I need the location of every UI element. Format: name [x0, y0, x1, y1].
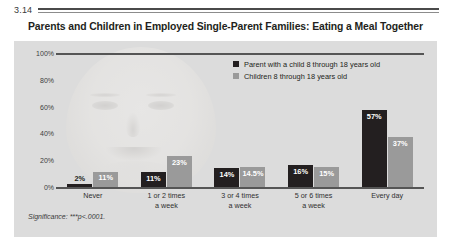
bar-group-1-or-2-times: 11% 23%	[130, 53, 204, 187]
plot-area: 2% 11% 11% 23% 14% 14.5%	[56, 53, 424, 188]
x-tick-label-every-day: Every day	[350, 191, 424, 210]
bar-value-label: 14%	[220, 171, 235, 178]
bar-group-3-or-4-times: 14% 14.5%	[203, 53, 277, 187]
bar-parent-3-or-4-times: 14%	[214, 168, 239, 187]
bar-value-label: 2%	[74, 175, 85, 182]
bar-value-label: 15%	[319, 170, 334, 177]
bar-parent-never: 2%	[67, 184, 92, 187]
bar-group-never: 2% 11%	[56, 53, 130, 187]
bar-value-label: 16%	[293, 168, 308, 175]
chart-panel: Parent with a child 8 through 18 years o…	[14, 41, 437, 237]
x-axis-labels: Never 1 or 2 times a week 3 or 4 times a…	[56, 191, 424, 210]
x-tick-line: 1 or 2 times	[130, 191, 204, 201]
figure-number-row: 3.14	[14, 4, 439, 16]
x-tick-line: 5 or 6 times	[277, 191, 351, 201]
bar-parent-5-or-6-times: 16%	[288, 165, 313, 187]
axis-line-baseline	[56, 187, 424, 189]
header-rule-bottom	[38, 12, 439, 13]
x-tick-line: a week	[277, 201, 351, 211]
x-tick-line: a week	[130, 201, 204, 211]
bar-value-label: 37%	[393, 140, 408, 147]
bar-children-3-or-4-times: 14.5%	[240, 167, 265, 187]
significance-note: Significance: ***p<.0001.	[28, 213, 105, 220]
x-tick-label-5-or-6-times: 5 or 6 times a week	[277, 191, 351, 210]
header-rule	[38, 7, 439, 13]
bar-children-every-day: 37%	[388, 137, 413, 187]
x-tick-line: a week	[203, 201, 277, 211]
y-axis-labels: 100% 80% 60% 40% 20% 0%	[28, 53, 54, 188]
bar-children-never: 11%	[93, 172, 118, 187]
bar-value-label: 23%	[172, 159, 187, 166]
y-tick-label-100: 100%	[36, 50, 54, 57]
y-tick-label-20: 20%	[40, 157, 54, 164]
x-tick-label-1-or-2-times: 1 or 2 times a week	[130, 191, 204, 210]
bar-parent-1-or-2-times: 11%	[141, 172, 166, 187]
figure-title: Parents and Children in Employed Single-…	[28, 21, 438, 32]
x-tick-line: Every day	[350, 191, 424, 201]
bar-children-1-or-2-times: 23%	[167, 156, 192, 187]
bar-group-5-or-6-times: 16% 15%	[277, 53, 351, 187]
figure-number: 3.14	[14, 5, 32, 15]
y-tick-label-60: 60%	[40, 104, 54, 111]
y-tick-label-40: 40%	[40, 130, 54, 137]
x-tick-line: 3 or 4 times	[203, 191, 277, 201]
bar-children-5-or-6-times: 15%	[314, 167, 339, 187]
header-rule-top	[38, 8, 439, 10]
bar-parent-every-day: 57%	[362, 110, 387, 187]
y-tick-label-80: 80%	[40, 77, 54, 84]
bar-value-label: 11%	[146, 175, 160, 182]
bar-group-every-day: 57% 37%	[350, 53, 424, 187]
bar-value-label: 14.5%	[243, 170, 264, 177]
bar-value-label: 11%	[99, 174, 113, 181]
x-tick-label-3-or-4-times: 3 or 4 times a week	[203, 191, 277, 210]
y-tick-label-0: 0%	[44, 184, 54, 191]
bar-value-label: 57%	[367, 113, 382, 120]
x-tick-line: Never	[56, 191, 130, 201]
bar-groups: 2% 11% 11% 23% 14% 14.5%	[56, 53, 424, 187]
x-tick-label-never: Never	[56, 191, 130, 210]
